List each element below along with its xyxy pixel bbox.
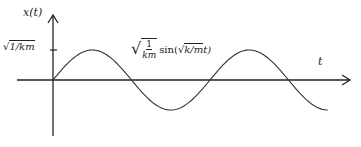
fraction: 1 km	[141, 38, 157, 60]
inner-variable: t)	[203, 44, 211, 55]
inner-radicand: k/m	[184, 43, 203, 55]
x-axis-label: t	[318, 55, 322, 68]
tick-radicand: 1/km	[9, 40, 34, 52]
sqrt-sign: √	[131, 41, 141, 57]
fraction-denominator: km	[142, 50, 156, 60]
plot-area	[0, 0, 361, 147]
y-axis-label: x(t)	[23, 6, 42, 19]
fraction-numerator: 1	[146, 39, 152, 50]
curve-annotation: √ 1 km sin( √k/m t)	[131, 38, 211, 60]
amplitude-tick-label: √1/km	[3, 41, 35, 52]
sin-function: sin(	[159, 44, 178, 55]
